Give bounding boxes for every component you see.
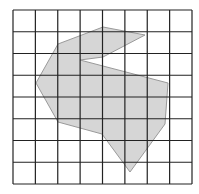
grid-diagram [0, 0, 199, 194]
square-grid [13, 10, 192, 184]
